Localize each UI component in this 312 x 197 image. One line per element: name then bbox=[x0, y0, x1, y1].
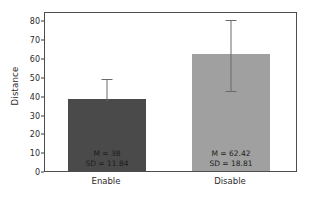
y-axis-tick-label: 50 bbox=[30, 73, 40, 82]
x-axis-label-disable: Disable bbox=[214, 176, 246, 186]
y-axis-tick-label: 0 bbox=[35, 168, 40, 177]
bar-sd-annotation: SD = 11.84 bbox=[68, 159, 145, 168]
y-axis-tick-label: 70 bbox=[30, 36, 40, 45]
y-axis-tick-label: 40 bbox=[30, 92, 40, 101]
y-axis-tick-label: 80 bbox=[30, 17, 40, 26]
error-bar-line bbox=[106, 79, 107, 101]
y-axis-tick-label: 20 bbox=[30, 130, 40, 139]
error-bar-cap-lower bbox=[225, 91, 236, 92]
x-axis-label-enable: Enable bbox=[92, 176, 121, 186]
y-axis-tick-label: 30 bbox=[30, 111, 40, 120]
bar-enable[interactable]: M = 38SD = 11.84 bbox=[68, 99, 145, 171]
y-axis-tick-mark bbox=[41, 59, 44, 60]
y-axis-title-text: Distance bbox=[10, 67, 20, 106]
y-axis-tick-mark bbox=[41, 77, 44, 78]
error-bar-cap-upper bbox=[225, 20, 236, 21]
y-axis-tick-label: 10 bbox=[30, 149, 40, 158]
y-axis-tick-label: 60 bbox=[30, 55, 40, 64]
bar-mean-annotation: M = 38 bbox=[68, 149, 145, 158]
y-axis-tick-mark bbox=[41, 134, 44, 135]
y-axis-tick-mark bbox=[41, 21, 44, 22]
y-axis-tick-mark bbox=[41, 96, 44, 97]
x-axis-category-labels: EnableDisable bbox=[44, 176, 297, 192]
error-bar-line bbox=[230, 20, 231, 91]
bar-sd-annotation: SD = 18.81 bbox=[192, 159, 269, 168]
bar-chart-figure: Distance 01020304050607080 M = 38SD = 11… bbox=[0, 0, 312, 197]
y-axis-tick-labels: 01020304050607080 bbox=[20, 12, 40, 172]
plot-area: M = 38SD = 11.84M = 62.42SD = 18.81 bbox=[44, 12, 297, 172]
error-bar-cap-upper bbox=[101, 79, 112, 80]
y-axis-tick-mark bbox=[41, 40, 44, 41]
y-axis-tick-mark bbox=[41, 115, 44, 116]
y-axis-tick-mark bbox=[41, 153, 44, 154]
y-axis-tick-mark bbox=[41, 172, 44, 173]
bar-mean-annotation: M = 62.42 bbox=[192, 149, 269, 158]
